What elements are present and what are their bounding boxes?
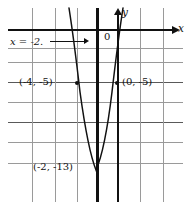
data-point-marker	[75, 81, 79, 85]
parabola-curve	[0, 0, 191, 210]
axis-of-symmetry-pointer-line	[50, 41, 84, 42]
axis-of-symmetry-label: x = -2.	[10, 36, 43, 47]
vertex-label: (-2, -13)	[33, 161, 73, 172]
axis-of-symmetry-pointer-arrow-icon	[84, 38, 89, 44]
data-point-label: (-4, -5)	[19, 76, 53, 87]
graph-figure: x y 0 x = -2. (-4, -5) (0, -5) (-2, -13)	[0, 0, 191, 210]
data-point-label: (0, -5)	[122, 76, 152, 87]
